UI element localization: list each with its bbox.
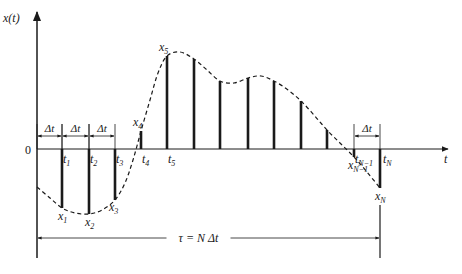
time-label-t1: t1	[63, 152, 70, 168]
delta-t-label: Δt	[96, 122, 107, 134]
delta-t-markers: ΔtΔtΔtΔt	[37, 122, 380, 149]
sampling-diagram: ΔtΔtΔtΔt τ = N Δt t1x1t2x2t3x3t4x4t5x5tN…	[0, 0, 462, 274]
sample-label-x1: x1	[57, 209, 67, 225]
time-label-tN: tN	[383, 152, 392, 168]
time-label-t3: t3	[116, 152, 123, 168]
duration-label: τ = N Δt	[179, 231, 219, 245]
sample-label-x2: x2	[84, 215, 94, 231]
sample-label-xN: xN	[374, 189, 386, 205]
delta-t-label: Δt	[44, 122, 55, 134]
diagram-canvas: ΔtΔtΔtΔt τ = N Δt t1x1t2x2t3x3t4x4t5x5tN…	[0, 0, 462, 274]
time-label-t5: t5	[168, 152, 175, 168]
labels: t1x1t2x2t3x3t4x4t5x5tN−1xN−1tNxNx(t)t0	[2, 11, 448, 231]
sample-label-x5: x5	[158, 40, 168, 56]
y-axis-label: x(t)	[2, 11, 20, 25]
delta-t-label: Δt	[70, 122, 81, 134]
time-label-t2: t2	[90, 152, 97, 168]
x-axis-label: t	[444, 152, 448, 166]
sample-label-x4: x4	[132, 115, 142, 131]
sample-bars	[62, 56, 380, 214]
time-label-t4: t4	[142, 152, 149, 168]
delta-t-label: Δt	[361, 122, 372, 134]
origin-label: 0	[25, 143, 31, 157]
sample-label-x3: x3	[108, 200, 118, 216]
axes	[37, 12, 448, 258]
